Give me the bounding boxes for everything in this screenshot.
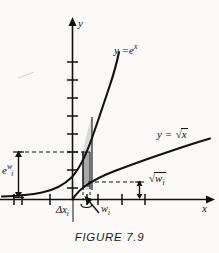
y-axis-label: y: [78, 17, 83, 29]
exponential-curve: [2, 52, 119, 197]
x-axis-label: x: [202, 202, 207, 214]
figure-container: y x y =ex y = √x ewi √wi Δxi wi FIGURE 7…: [0, 0, 219, 253]
radical-sign: √x: [175, 128, 187, 140]
square-root-curve: [73, 139, 211, 200]
radical-sign-wi: √wi: [148, 172, 165, 187]
exp-height-arrow: [13, 151, 24, 199]
stray-mark: [18, 72, 34, 78]
sqrt-height-arrow: [135, 181, 144, 200]
w-label: wi: [101, 203, 110, 217]
sqrt-height-label: √wi: [148, 172, 165, 187]
exponential-curve-label: y =ex: [114, 42, 137, 56]
square-root-curve-label: y = √x: [157, 128, 187, 140]
x-axis-arrowhead: [206, 196, 215, 204]
exp-height-label: ewi: [2, 162, 14, 176]
figure-caption: FIGURE 7.9: [0, 231, 219, 243]
y-axis-arrowhead: [69, 17, 77, 26]
delta-x-label: Δxi: [56, 204, 69, 218]
